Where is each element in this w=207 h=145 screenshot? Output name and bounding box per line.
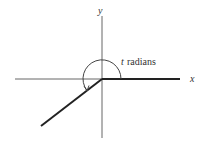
angle-variable-label: t	[121, 56, 124, 67]
y-axis-label: y	[97, 5, 103, 16]
angle-unit-label: radians	[127, 56, 156, 67]
terminal-side-ray	[41, 79, 102, 126]
angle-diagram: y x t radians	[0, 0, 207, 145]
x-axis-label: x	[189, 73, 195, 84]
